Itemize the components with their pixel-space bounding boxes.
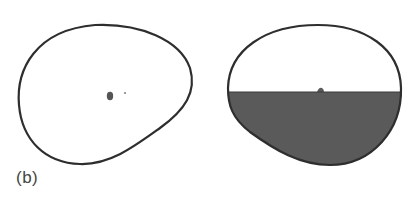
right-vessel [220,25,410,172]
surface-bump [317,88,324,92]
left-vessel-outline [19,25,192,164]
particle-small [124,92,126,94]
diagram-canvas [0,0,410,205]
panel-label: (b) [16,168,38,188]
left-vessel [19,25,192,164]
particle-large [107,92,113,100]
